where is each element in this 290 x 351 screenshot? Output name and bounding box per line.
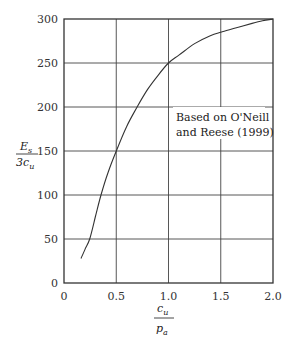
y-tick-label: 50 xyxy=(44,233,58,246)
y-tick-label: 300 xyxy=(37,13,58,26)
y-tick-label: 150 xyxy=(37,145,58,158)
svg-text:Es: Es xyxy=(19,140,32,155)
chart: 050100150200250300 00.51.01.52.0 Based o… xyxy=(0,0,290,351)
y-tick-label: 0 xyxy=(51,277,58,290)
x-tick-label: 0.5 xyxy=(108,290,126,303)
y-tick-label: 100 xyxy=(37,189,58,202)
svg-text:cu: cu xyxy=(157,302,168,317)
x-axis-ticks: 00.51.01.52.0 xyxy=(61,290,282,303)
svg-text:pa: pa xyxy=(156,322,168,337)
x-tick-label: 0 xyxy=(61,290,68,303)
x-tick-label: 2.0 xyxy=(264,290,282,303)
y-tick-label: 250 xyxy=(37,57,58,70)
y-axis-ticks: 050100150200250300 xyxy=(37,13,58,290)
annotation: Based on O'Neill and Reese (1999) xyxy=(173,107,274,139)
grid-lines xyxy=(64,19,273,283)
annotation-line2: and Reese (1999) xyxy=(176,126,274,139)
x-axis-label: cu pa xyxy=(154,302,174,337)
y-axis-label: Es 3cu xyxy=(16,140,38,171)
annotation-line1: Based on O'Neill xyxy=(176,111,270,124)
x-tick-label: 1.5 xyxy=(212,290,230,303)
svg-text:3cu: 3cu xyxy=(16,156,34,171)
y-tick-label: 200 xyxy=(37,101,58,114)
